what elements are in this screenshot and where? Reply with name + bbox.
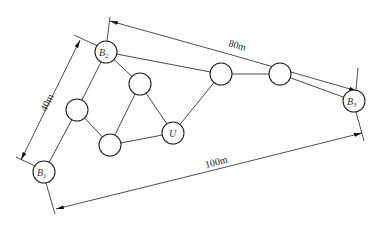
edges xyxy=(44,52,354,172)
node-B2: B2 xyxy=(95,41,117,63)
node-n1 xyxy=(129,73,151,95)
dimension-40m: 40m xyxy=(16,35,100,167)
node-B3: B3 xyxy=(343,90,365,112)
node-U: U xyxy=(162,122,184,144)
node-n4 xyxy=(210,63,232,85)
node-label: U xyxy=(169,128,177,139)
dim-label-80m: 80m xyxy=(227,37,247,53)
node-n5 xyxy=(269,63,291,85)
node-B1: B1 xyxy=(33,161,55,183)
edge-n5-B3 xyxy=(280,74,354,101)
network-diagram: 40m 80m 100m B2 B1 xyxy=(0,0,380,231)
node-n2 xyxy=(66,99,88,121)
edge-B2-B3 xyxy=(106,52,221,74)
node-n3 xyxy=(99,134,121,156)
